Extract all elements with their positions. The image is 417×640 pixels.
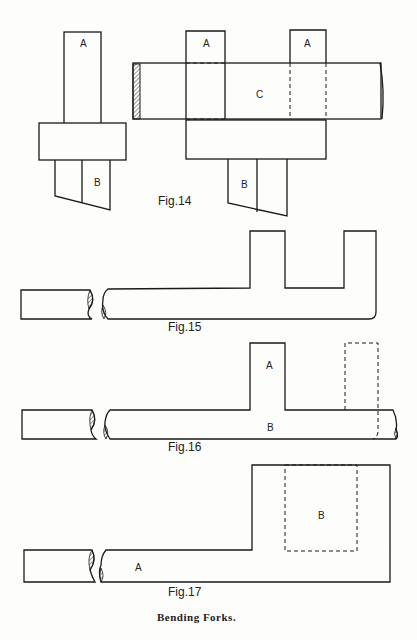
bent-fork-bar <box>103 231 376 319</box>
fig14: A B C A A <box>39 30 383 216</box>
dashed-prong-outline <box>345 343 378 439</box>
label-b: B <box>318 510 325 521</box>
label-a-right: A <box>304 38 311 49</box>
bent-fork-bar <box>105 343 398 439</box>
fork-block <box>39 123 126 160</box>
label-b: B <box>94 177 101 188</box>
fig17: B A Fig.17 <box>24 465 390 599</box>
fig17-caption: Fig.17 <box>168 585 202 599</box>
fork-block <box>186 120 326 159</box>
fig14-left-fork: A B <box>39 32 126 210</box>
label-a: A <box>135 562 142 573</box>
label-c: C <box>256 89 263 100</box>
bar-stub <box>22 410 96 439</box>
label-a: A <box>266 360 273 371</box>
bending-forks-plate: A B C A A <box>0 0 417 640</box>
bar-stub <box>24 550 95 582</box>
fig15: Fig.15 <box>21 231 376 334</box>
label-b: B <box>241 179 248 190</box>
fig16: A B Fig.16 <box>22 343 398 454</box>
fig15-caption: Fig.15 <box>168 320 202 334</box>
fig14-right-fork: C A A B <box>133 30 383 216</box>
hatched-end <box>133 64 140 119</box>
label-b: B <box>267 422 274 433</box>
label-a-left: A <box>203 38 210 49</box>
dashed-block-outline <box>285 465 357 551</box>
fig14-caption: Fig.14 <box>158 194 192 208</box>
plate-caption: Bending Forks. <box>157 611 236 623</box>
label-a: A <box>80 38 87 49</box>
bent-fork-bar <box>100 465 391 582</box>
fig16-caption: Fig.16 <box>168 440 202 454</box>
bar-stub <box>21 290 93 319</box>
